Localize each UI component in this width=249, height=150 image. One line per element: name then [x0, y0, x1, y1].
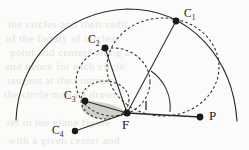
label-f: F — [122, 118, 129, 131]
label-c2: C2 — [88, 34, 99, 48]
label-c4-subscript: 4 — [60, 130, 64, 139]
point-dot-c1 — [173, 18, 180, 25]
geometry-figure: the circles and their radii of the famil… — [0, 0, 249, 150]
radius-line-f-c2 — [105, 48, 127, 113]
point-dot-c2 — [102, 45, 109, 52]
shaded-lens-region — [81, 101, 127, 119]
label-c2-text: C — [88, 33, 96, 45]
label-c3-subscript: 3 — [72, 95, 76, 104]
label-c2-subscript: 2 — [96, 39, 100, 48]
dashed-circle-large — [107, 18, 219, 116]
label-c1-subscript: 1 — [192, 13, 196, 22]
label-c3-text: C — [64, 89, 72, 101]
point-dot-f — [123, 109, 130, 116]
label-c4-text: C — [52, 124, 60, 136]
label-c4: C4 — [52, 125, 63, 139]
label-p: P — [209, 109, 216, 122]
point-dot-p — [197, 114, 204, 121]
angle-arc — [151, 71, 170, 112]
point-dot-c4 — [72, 128, 78, 134]
label-c1-text: C — [184, 7, 192, 19]
radius-line-f-c1 — [127, 21, 176, 113]
label-c3: C3 — [64, 90, 75, 104]
label-c1: C1 — [184, 8, 195, 22]
point-dot-c3 — [82, 98, 89, 105]
